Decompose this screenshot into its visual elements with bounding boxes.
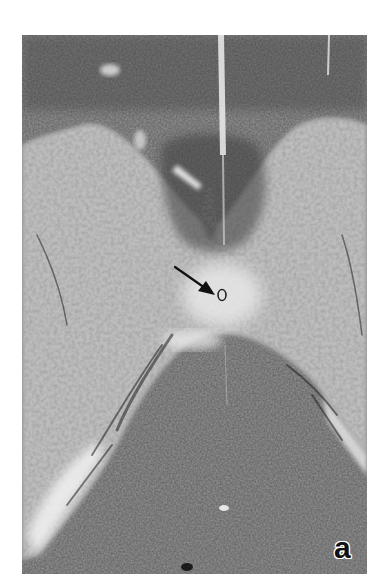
- septum-lower: [223, 155, 224, 245]
- pale-patch: [100, 64, 120, 76]
- pale-patch: [134, 130, 146, 150]
- micrograph-image: [22, 35, 367, 574]
- ventral-commissure: [162, 330, 222, 350]
- dark-spot: [181, 563, 193, 571]
- central-pale-area: [182, 263, 262, 327]
- panel-label: a: [334, 533, 351, 563]
- top-dark-band: [22, 35, 367, 110]
- dorsal-median-septum: [221, 35, 223, 155]
- pale-spot: [219, 505, 229, 511]
- pale-vessel-line: [328, 35, 329, 75]
- micrograph-panel: a: [22, 35, 367, 574]
